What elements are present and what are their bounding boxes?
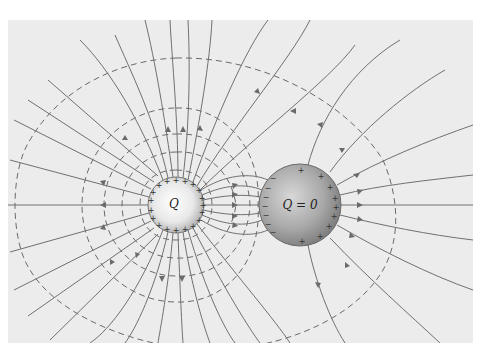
svg-text:+: + <box>156 181 163 190</box>
svg-text:+: + <box>173 226 180 235</box>
svg-text:−: − <box>270 174 277 183</box>
svg-text:+: + <box>148 206 155 215</box>
svg-text:−: − <box>265 184 272 193</box>
svg-text:+: + <box>299 237 306 246</box>
svg-text:+: + <box>156 221 163 230</box>
svg-text:−: − <box>270 228 277 237</box>
svg-text:+: + <box>298 166 305 175</box>
neutral-sphere: − − − − − − − + + + + + + + + + Q = 0 <box>259 164 341 246</box>
neutral-sphere-label: Q = 0 <box>282 198 318 212</box>
field-diagram: + + + + + + + + + + + + + + + + + + + Q … <box>0 0 483 352</box>
svg-text:+: + <box>196 216 203 225</box>
svg-text:+: + <box>190 222 197 231</box>
svg-text:−: − <box>263 211 270 220</box>
svg-text:+: + <box>148 196 155 205</box>
svg-text:+: + <box>332 194 339 203</box>
charged-sphere-label: Q <box>169 197 179 211</box>
svg-text:+: + <box>333 203 340 212</box>
svg-text:+: + <box>182 177 189 186</box>
diagram-panel <box>8 20 473 343</box>
svg-text:+: + <box>317 232 324 241</box>
svg-text:+: + <box>326 222 333 231</box>
svg-text:+: + <box>331 212 338 221</box>
svg-text:+: + <box>327 183 334 192</box>
svg-text:+: + <box>182 225 189 234</box>
svg-text:+: + <box>173 176 180 185</box>
svg-text:+: + <box>164 225 171 234</box>
svg-text:+: + <box>318 172 325 181</box>
svg-text:+: + <box>164 177 171 186</box>
svg-text:−: − <box>262 202 269 211</box>
svg-text:−: − <box>263 193 270 202</box>
svg-text:+: + <box>150 214 157 223</box>
